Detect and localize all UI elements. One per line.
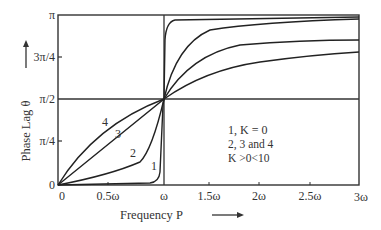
x-axis-arrow-icon xyxy=(212,212,244,218)
x-tick-w: ω xyxy=(160,189,168,203)
curve-label-1: 1 xyxy=(151,159,157,173)
x-tick-2.5w: 2.5ω xyxy=(299,189,322,203)
x-axis-label: Frequency P xyxy=(120,208,183,222)
curves xyxy=(58,17,359,185)
y-tick-3pi4: 3π/4 xyxy=(34,50,55,64)
y-tick-pi2: π/2 xyxy=(40,92,55,106)
phase-lag-chart: 4 3 2 1 1, K = 0 2, 3 and 4 K >0<10 0 π/… xyxy=(0,0,381,230)
y-tick-pi4: π/4 xyxy=(40,134,55,148)
x-tick-0: 0 xyxy=(59,189,65,203)
legend-line-1: 1, K = 0 xyxy=(228,123,267,137)
legend-line-3: K >0<10 xyxy=(228,152,270,164)
curve-1 xyxy=(58,17,359,185)
curve-label-3: 3 xyxy=(115,127,121,141)
curve-label-2: 2 xyxy=(130,146,136,160)
x-tick-1.5w: 1.5ω xyxy=(198,189,221,203)
legend-line-2: 2, 3 and 4 xyxy=(228,138,274,151)
x-tick-3w: 3ω xyxy=(354,190,368,204)
curve-2 xyxy=(58,19,359,185)
x-tick-2w: 2ω xyxy=(252,189,266,203)
curve-label-4: 4 xyxy=(102,115,108,129)
y-tick-0: 0 xyxy=(49,178,55,192)
y-axis-arrow-icon xyxy=(23,40,29,68)
x-tick-0.5w: 0.5ω xyxy=(97,189,120,203)
y-tick-pi: π xyxy=(49,8,55,22)
y-axis-label: Phase Lag θ xyxy=(19,101,33,162)
curve-3 xyxy=(58,40,359,185)
